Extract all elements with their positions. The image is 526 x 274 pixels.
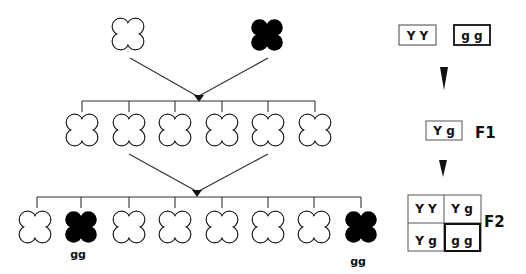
green-pea-icon	[345, 211, 377, 243]
genetics-cross-diagram: gggg Y Y g g Y g F1 Y Y Y g Y g g g F2	[0, 0, 526, 274]
yellow-pea-icon	[252, 114, 284, 146]
yellow-pea-icon	[206, 114, 238, 146]
green-pea-icon	[65, 211, 97, 243]
yellow-pea-icon	[298, 211, 330, 243]
f2-genotype-labels: gggg	[70, 248, 366, 268]
cross-lines-f1-to-f2	[129, 154, 268, 191]
punnett-cell: g g	[451, 234, 472, 248]
punnett-cell: Y Y	[414, 202, 437, 216]
arrow-down-icon	[440, 67, 448, 90]
yellow-pea-icon	[19, 211, 51, 243]
yellow-pea-icon	[113, 211, 145, 243]
genotype-label: gg	[350, 255, 366, 268]
arrowhead-icon	[192, 190, 202, 197]
punnett-square: Y Y Y g Y g g g	[408, 195, 481, 251]
yellow-pea-icon	[113, 114, 145, 146]
genotype-label: gg	[70, 248, 86, 261]
f1-label: F1	[475, 124, 496, 142]
punnett-cell: Y g	[450, 202, 472, 216]
arrow-down-icon	[439, 160, 447, 177]
yellow-pea-icon	[159, 211, 191, 243]
cross-lines-p-to-f1	[130, 58, 268, 96]
parent-1-genotype: Y Y	[406, 29, 429, 43]
f1-genotype: Y g	[432, 124, 454, 138]
f1-bracket-drops	[82, 101, 315, 112]
yellow-pea-icon	[252, 211, 284, 243]
yellow-pea-icon	[159, 114, 191, 146]
genotype-panel: Y Y g g Y g F1 Y Y Y g Y g g g F2	[399, 25, 505, 251]
f2-bracket-drops	[37, 197, 361, 208]
green-pea-icon	[251, 19, 283, 51]
yellow-pea-icon	[299, 114, 331, 146]
f2-generation	[19, 211, 377, 243]
yellow-pea-icon	[66, 114, 98, 146]
f1-generation	[66, 114, 331, 146]
yellow-pea-icon	[112, 18, 144, 50]
f2-label: F2	[484, 213, 505, 231]
parent-2-genotype: g g	[461, 29, 482, 43]
punnett-cell: Y g	[414, 234, 436, 248]
parent-generation	[112, 18, 283, 51]
yellow-pea-icon	[206, 211, 238, 243]
